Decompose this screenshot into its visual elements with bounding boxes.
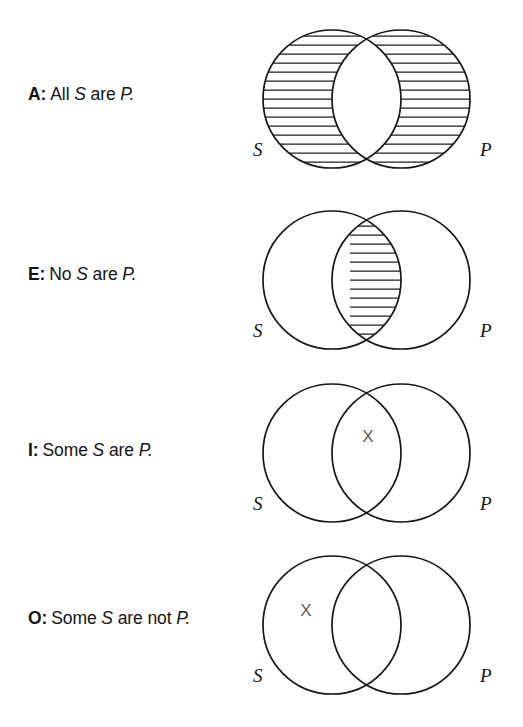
- x-mark-s-and-p-i: X: [362, 427, 373, 446]
- set-label-p-o: P: [479, 665, 492, 686]
- set-label-s-a: S: [253, 139, 263, 160]
- set-label-s-e: S: [253, 320, 263, 341]
- proposition-predicate-a: P.: [120, 84, 134, 104]
- set-label-p-i: P: [479, 493, 492, 514]
- proposition-predicate-i: P.: [139, 440, 153, 460]
- proposition-quantifier-a: All: [50, 84, 69, 104]
- set-label-s-i: S: [253, 493, 263, 514]
- proposition-letter-e: E:: [28, 264, 45, 284]
- proposition-copula-o: are not: [118, 608, 172, 628]
- venn-diagram-i: X S P: [240, 370, 523, 542]
- proposition-label-a: A:All S are P.: [28, 86, 134, 104]
- proposition-subject-i: S: [93, 440, 105, 460]
- proposition-row-i: I:Some S are P. X S P: [0, 370, 523, 542]
- x-mark-s-not-p-o: X: [300, 601, 311, 620]
- proposition-row-e: E:No S are P.: [0, 190, 523, 370]
- proposition-label-i: I:Some S are P.: [28, 442, 153, 460]
- proposition-copula-i: are: [109, 440, 134, 460]
- venn-diagram-e: S P: [240, 190, 523, 370]
- proposition-row-o: O:Some S are not P. X S P: [0, 542, 523, 727]
- proposition-quantifier-o: Some: [51, 608, 96, 628]
- proposition-label-o: O:Some S are not P.: [28, 610, 190, 628]
- proposition-predicate-e: P.: [122, 264, 136, 284]
- set-label-s-o: S: [253, 665, 263, 686]
- proposition-copula-a: are: [91, 84, 116, 104]
- venn-diagram-o: X S P: [240, 542, 523, 727]
- venn-diagram-a: S P: [240, 0, 523, 190]
- proposition-letter-a: A:: [28, 84, 46, 104]
- proposition-row-a: A:All S are P.: [0, 0, 523, 190]
- proposition-quantifier-i: Some: [43, 440, 88, 460]
- proposition-letter-i: I:: [28, 440, 39, 460]
- proposition-quantifier-e: No: [49, 264, 71, 284]
- proposition-predicate-o: P.: [176, 608, 190, 628]
- proposition-letter-o: O:: [28, 608, 47, 628]
- categorical-propositions-figure: A:All S are P.: [0, 0, 523, 727]
- set-label-p-a: P: [479, 139, 492, 160]
- proposition-label-e: E:No S are P.: [28, 266, 136, 284]
- set-label-p-e: P: [479, 320, 492, 341]
- shading-s-not-p: [258, 36, 476, 162]
- proposition-subject-e: S: [76, 264, 88, 284]
- proposition-copula-e: are: [93, 264, 118, 284]
- shading-s-and-p: [350, 217, 455, 343]
- proposition-subject-a: S: [74, 84, 86, 104]
- proposition-subject-o: S: [101, 608, 113, 628]
